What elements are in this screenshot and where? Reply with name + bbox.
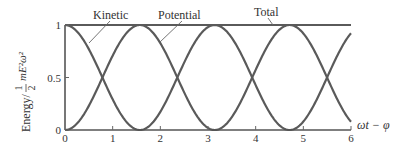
energy-chart: 012345600.51ωt − φEnergy/12mE²ω² Kinetic… xyxy=(0,0,397,148)
y-tick-label: 1 xyxy=(56,19,62,31)
svg-text:2: 2 xyxy=(26,86,37,91)
x-tick-label: 5 xyxy=(301,132,307,144)
y-tick-label: 0 xyxy=(56,124,62,136)
plot-curves xyxy=(65,25,351,130)
annotation-potential: Potential xyxy=(158,8,201,22)
x-axis-label: ωt − φ xyxy=(357,118,390,132)
axes: 012345600.51ωt − φEnergy/12mE²ω² xyxy=(13,19,390,144)
svg-text:Energy/: Energy/ xyxy=(19,94,33,132)
x-tick-label: 4 xyxy=(253,132,259,144)
x-tick-label: 0 xyxy=(62,132,68,144)
svg-text:1: 1 xyxy=(13,86,24,91)
y-tick-label: 0.5 xyxy=(47,72,61,84)
x-tick-label: 1 xyxy=(110,132,116,144)
annotation-kinetic: Kinetic xyxy=(93,8,128,22)
x-tick-label: 6 xyxy=(348,132,354,144)
annotation-total: Total xyxy=(254,5,279,19)
y-axis-label: Energy/12mE²ω² xyxy=(13,51,37,132)
x-tick-label: 2 xyxy=(158,132,164,144)
svg-text:mE²ω²: mE²ω² xyxy=(16,51,28,81)
x-tick-label: 3 xyxy=(205,132,211,144)
